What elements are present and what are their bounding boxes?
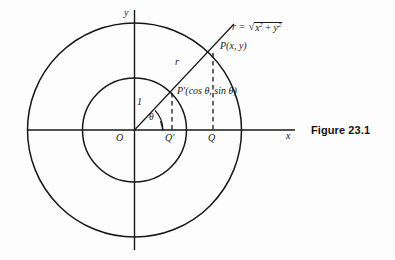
y-axis-label: y — [124, 8, 128, 18]
unit-radius-label: 1 — [137, 97, 142, 107]
point-q-label: Q — [208, 133, 215, 143]
point-q-prime-label: Q′ — [165, 133, 174, 143]
formula-lhs: r = — [232, 21, 245, 32]
theta-label: θ — [149, 113, 154, 123]
figure-caption: Figure 23.1 — [311, 124, 370, 136]
radical-overbar: x2 + y2 — [254, 22, 282, 33]
formula-exponent-x: 2 — [260, 20, 263, 27]
figure-container: O x y 1 θ r Q Q′ P(x, y) P′(cos θ, sin θ… — [0, 0, 395, 260]
origin-label: O — [116, 133, 123, 143]
point-p-label: P(x, y) — [220, 41, 247, 51]
square-root-icon: √x2 + y2 — [248, 21, 283, 32]
formula-plus-sign: + — [265, 22, 271, 33]
point-p-prime-label: P′(cos θ, sin θ) — [177, 86, 237, 96]
x-axis-label: x — [286, 131, 290, 141]
polar-radius-formula: r = √x2 + y2 — [232, 21, 282, 32]
r-radius-label: r — [175, 57, 179, 67]
formula-exponent-y: 2 — [278, 20, 281, 27]
